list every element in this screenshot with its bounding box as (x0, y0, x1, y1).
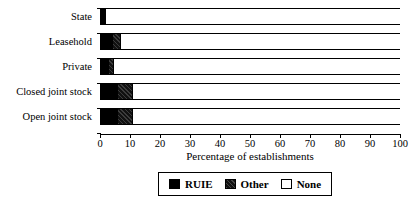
legend-label-ruie: RUIE (185, 178, 213, 190)
x-axis-tick-label: 100 (385, 138, 415, 150)
legend-swatch-none-icon (281, 179, 292, 189)
bar-segment-none (133, 84, 402, 99)
x-axis-tick-label: 40 (205, 138, 235, 150)
bar-segment-other (113, 34, 121, 49)
bar-segment-ruie (101, 109, 118, 124)
bar-segment-ruie (101, 59, 109, 74)
category-label-open-joint-stock: Open joint stock (0, 111, 92, 122)
bar-segment-none (133, 109, 402, 124)
category-axis-labels: State Leasehold Private Closed joint sto… (0, 8, 96, 134)
y-axis-tick (97, 33, 101, 34)
bar-segment-none (121, 34, 402, 49)
chart-legend: RUIE Other None (158, 172, 332, 196)
legend-label-none: None (297, 178, 321, 190)
legend-swatch-other-icon (225, 179, 236, 189)
bar-segment-other (118, 84, 133, 99)
y-axis-spine (100, 8, 101, 134)
bar-row (100, 83, 400, 100)
category-label-private: Private (0, 61, 92, 72)
stacked-bar-chart: State Leasehold Private Closed joint sto… (0, 0, 415, 213)
y-axis-tick (97, 8, 101, 9)
bar-row (100, 33, 400, 50)
plot-area (100, 8, 400, 134)
category-label-closed-joint-stock: Closed joint stock (0, 86, 92, 97)
x-axis-title: Percentage of establishments (100, 150, 400, 163)
bar-segment-ruie (101, 34, 113, 49)
x-axis-tick-label: 50 (235, 138, 265, 150)
bar-segment-other (118, 109, 133, 124)
legend-label-other: Other (241, 178, 269, 190)
x-axis-tick-label: 0 (85, 138, 115, 150)
bar-segment-ruie (101, 84, 118, 99)
x-axis-tick-label: 60 (265, 138, 295, 150)
legend-item-none: None (281, 178, 321, 190)
x-axis-tick-label: 30 (175, 138, 205, 150)
bar-segment-none (114, 59, 401, 74)
category-label-state: State (0, 11, 92, 22)
y-axis-tick (97, 58, 101, 59)
x-axis-tick-label: 90 (355, 138, 385, 150)
x-axis-tick-label: 10 (115, 138, 145, 150)
legend-item-ruie: RUIE (169, 178, 213, 190)
x-axis-tick-label: 80 (325, 138, 355, 150)
bar-row (100, 8, 400, 25)
x-axis-tick-label: 20 (145, 138, 175, 150)
legend-item-other: Other (225, 178, 269, 190)
y-axis-tick (97, 108, 101, 109)
category-label-leasehold: Leasehold (0, 36, 92, 47)
x-axis-tick-label: 70 (295, 138, 325, 150)
legend-swatch-ruie-icon (169, 179, 180, 189)
y-axis-tick (97, 83, 101, 84)
bar-row (100, 108, 400, 125)
bar-segment-none (106, 9, 401, 24)
bar-row (100, 58, 400, 75)
